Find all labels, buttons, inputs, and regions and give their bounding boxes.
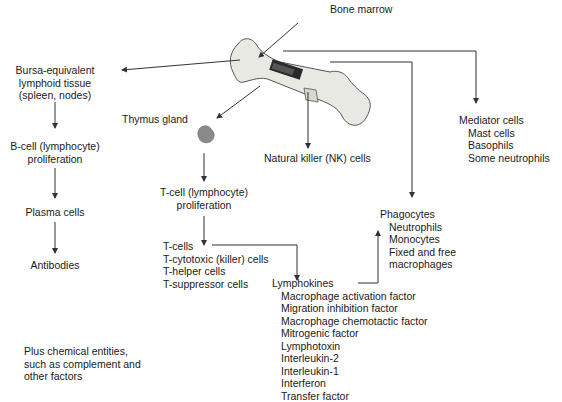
phagocytes-item: Fixed and free — [380, 246, 456, 259]
bursa-line: lymphoid tissue — [10, 77, 100, 90]
tcell-proliferation-label: T-cell (lymphocyte) proliferation — [152, 186, 256, 211]
arrow-to-bursa — [122, 60, 240, 70]
tcell-line: T-cell (lymphocyte) — [152, 186, 256, 199]
bcell-line: proliferation — [5, 153, 105, 166]
bone-icon — [230, 39, 370, 126]
lymphokines-item: Macrophage chemotactic factor — [272, 315, 428, 328]
bursa-line: Bursa-equivalent — [10, 64, 100, 77]
lymphokines-list: Lymphokines Macrophage activation factor… — [272, 277, 428, 402]
antibodies-label: Antibodies — [5, 259, 105, 272]
bcell-line: B-cell (lymphocyte) — [5, 140, 105, 153]
thymus-icon — [198, 126, 214, 143]
tcells-item: T-cytotoxic (killer) cells — [163, 253, 269, 266]
lymphokines-item: Migration inhibition factor — [272, 302, 428, 315]
bcell-proliferation-label: B-cell (lymphocyte) proliferation — [5, 140, 105, 165]
lymphokines-item: Transfer factor — [272, 390, 428, 402]
lymphokines-item: Interleukin-2 — [272, 352, 428, 365]
phagocytes-item: Monocytes — [380, 233, 456, 246]
bone-marrow-pointer — [259, 23, 298, 57]
phagocytes-list: Phagocytes Neutrophils Monocytes Fixed a… — [380, 208, 456, 271]
plus-chemical-entities-note: Plus chemical entities, such as compleme… — [24, 345, 141, 383]
mediator-item: Mast cells — [459, 127, 550, 140]
mediator-cells-list: Mediator cells Mast cells Basophils Some… — [459, 114, 550, 164]
lymphokines-heading: Lymphokines — [272, 277, 428, 290]
tcells-list: T-cells T-cytotoxic (killer) cells T-hel… — [163, 240, 269, 290]
tcells-heading: T-cells — [163, 240, 269, 253]
bursa-label: Bursa-equivalent lymphoid tissue (spleen… — [10, 64, 100, 102]
phagocytes-heading: Phagocytes — [380, 208, 456, 221]
mediator-item: Some neutrophils — [459, 152, 550, 165]
lymphokines-item: Interferon — [272, 377, 428, 390]
plus-line: such as complement and — [24, 358, 141, 371]
lymphokines-item: Interleukin-1 — [272, 365, 428, 378]
bone-marrow-label: Bone marrow — [330, 3, 392, 16]
phagocytes-item: Neutrophils — [380, 221, 456, 234]
bursa-line: (spleen, nodes) — [10, 89, 100, 102]
mediator-item: Basophils — [459, 139, 550, 152]
tcells-item: T-helper cells — [163, 265, 269, 278]
arrow-lymphokines-to-phagocytes — [358, 231, 378, 283]
arrow-to-thymus — [217, 86, 260, 118]
lymphokines-item: Mitrogenic factor — [272, 327, 428, 340]
thymus-gland-label: Thymus gland — [122, 113, 188, 126]
tcell-line: proliferation — [152, 199, 256, 212]
mediator-heading: Mediator cells — [459, 114, 550, 127]
phagocytes-item: macrophages — [380, 258, 456, 271]
lymphokines-item: Lymphotoxin — [272, 340, 428, 353]
nk-cells-label: Natural killer (NK) cells — [264, 152, 371, 165]
plus-line: other factors — [24, 370, 141, 383]
tcells-item: T-suppressor cells — [163, 278, 269, 291]
lymphokines-item: Macrophage activation factor — [272, 290, 428, 303]
plus-line: Plus chemical entities, — [24, 345, 141, 358]
plasma-cells-label: Plasma cells — [5, 206, 105, 219]
